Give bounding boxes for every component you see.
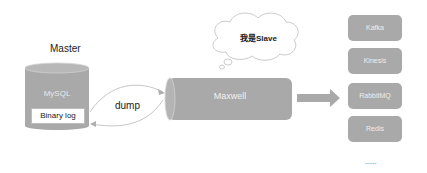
master-title: Master: [50, 43, 81, 54]
more-targets: ......: [365, 158, 377, 165]
dump-label: dump: [115, 100, 140, 111]
thought-label: 我是Slave: [240, 32, 277, 43]
target-kinesis: Kinesis: [348, 48, 402, 74]
dump-arrowhead-right: [158, 89, 165, 95]
target-redis: Redis: [348, 116, 402, 142]
mysql-label: MySQL: [25, 89, 89, 98]
target-rabbitmq: RabbitMQ: [348, 83, 402, 109]
target-kafka: Kafka: [348, 15, 402, 41]
output-arrow: [297, 89, 340, 107]
binary-log-box: Binary log: [31, 108, 85, 124]
maxwell-label: Maxwell: [180, 91, 280, 101]
dump-arrowhead-left: [90, 121, 96, 127]
